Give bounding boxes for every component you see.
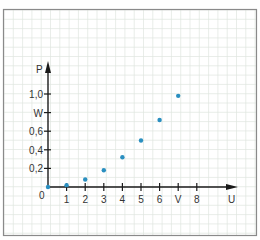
x-tick-label: 2	[82, 194, 88, 205]
data-point	[46, 185, 50, 189]
x-tick-label: 6	[157, 194, 163, 205]
x-tick-label: V	[175, 194, 182, 205]
data-point	[83, 177, 87, 181]
data-points	[46, 94, 181, 190]
data-point	[139, 138, 143, 142]
x-tick-label: 1	[64, 194, 70, 205]
y-tick-label: 0,4	[29, 145, 43, 156]
y-tick-label: 1,0	[29, 89, 43, 100]
origin-label: 0	[39, 190, 45, 201]
y-tick-label: W	[34, 108, 44, 119]
data-point	[176, 94, 180, 98]
data-point	[102, 168, 106, 172]
grid-lines	[4, 10, 256, 235]
data-point	[120, 155, 124, 159]
x-axis-label: U	[228, 194, 235, 205]
y-axis-arrow-icon	[45, 61, 51, 73]
y-axis-label: P	[36, 64, 43, 75]
x-tick-label: 3	[101, 194, 107, 205]
data-point	[157, 118, 161, 122]
y-tick-label: 0,6	[29, 126, 43, 137]
x-tick-label: 8	[194, 194, 200, 205]
chart: 123456V8 0,20,40,6W1,0 P U 0	[0, 0, 260, 240]
x-tick-label: 5	[138, 194, 144, 205]
x-tick-label: 4	[120, 194, 126, 205]
y-tick-label: 0,2	[29, 163, 43, 174]
axes	[45, 61, 238, 190]
data-point	[64, 183, 68, 187]
